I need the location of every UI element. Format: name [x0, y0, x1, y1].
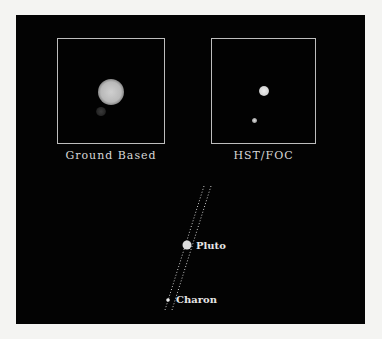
orbit-diagram [16, 15, 365, 324]
charon-label: Charon [176, 294, 217, 305]
pluto-marker [183, 241, 192, 250]
image-panel: Ground Based HST/FOC Pluto Charon [16, 15, 365, 324]
pluto-label: Pluto [196, 240, 226, 251]
charon-marker [166, 298, 170, 302]
